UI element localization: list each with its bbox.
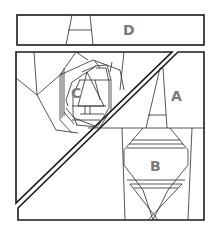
section-a-label: A xyxy=(171,88,182,104)
section-d-label: D xyxy=(123,22,135,38)
section-b-label: B xyxy=(150,158,161,174)
pattern-diagram: D C A B xyxy=(0,0,218,233)
section-d-outline xyxy=(17,15,204,45)
section-d: D xyxy=(17,15,204,45)
section-c-label: C xyxy=(71,85,81,101)
